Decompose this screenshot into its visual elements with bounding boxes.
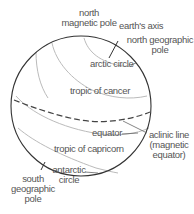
extra-latitude-line xyxy=(36,52,48,98)
label-equator: equator xyxy=(92,128,122,138)
earth-magnetism-diagram: north magnetic pole earth's axis north g… xyxy=(0,0,194,214)
aclinic-line-leader xyxy=(123,121,147,133)
label-north-magnetic-pole: north magnetic pole xyxy=(56,8,122,28)
label-line: magnetic pole xyxy=(56,18,122,28)
label-line: pole xyxy=(10,194,56,204)
label-aclinic-line: aclinic line (magnetic equator) xyxy=(146,130,192,160)
label-earths-axis: earth's axis xyxy=(119,21,163,31)
label-arctic-circle: arctic circle xyxy=(90,59,134,69)
equator-line xyxy=(16,96,149,135)
label-tropic-of-cancer: tropic of cancer xyxy=(70,86,130,96)
globe-outline xyxy=(11,36,151,176)
label-south-geographic-pole: south geographic pole xyxy=(10,174,56,204)
label-line: pole xyxy=(126,45,194,55)
equator-leader xyxy=(122,133,138,134)
label-north-geographic-pole: north geographic pole xyxy=(126,35,194,55)
label-tropic-of-capricorn: tropic of capricorn xyxy=(54,144,124,154)
label-line: equator) xyxy=(146,150,192,160)
